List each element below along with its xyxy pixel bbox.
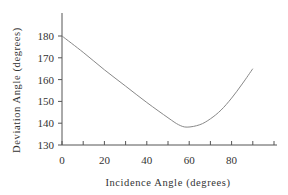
- y-tick-label: 170: [38, 52, 55, 64]
- x-tick-label: 20: [99, 154, 111, 166]
- y-tick-label: 180: [38, 30, 55, 42]
- x-tick-label: 80: [226, 154, 238, 166]
- deviation-curve: [62, 36, 253, 127]
- x-tick-label: 40: [141, 154, 153, 166]
- y-axis-label: Deviation Angle (degrees): [11, 27, 23, 153]
- y-tick-label: 150: [38, 95, 55, 107]
- x-axis-label: Incidence Angle (degrees): [105, 177, 230, 189]
- y-tick-label: 160: [38, 74, 55, 86]
- x-tick-label: 60: [184, 154, 196, 166]
- line-chart: 130140150160170180020406080Incidence Ang…: [0, 0, 288, 195]
- y-tick-label: 130: [38, 139, 55, 151]
- x-tick-label: 0: [59, 154, 65, 166]
- y-tick-label: 140: [38, 117, 55, 129]
